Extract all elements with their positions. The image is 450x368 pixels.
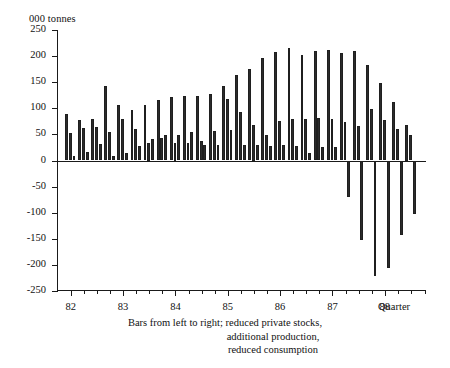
bar [78, 120, 81, 161]
chart-caption: Bars from left to right; reduced private… [0, 316, 450, 357]
y-axis-tick-label: 200 [30, 49, 46, 60]
bar [340, 53, 343, 160]
bar [392, 102, 395, 161]
x-axis-unit-label: Quarter [378, 301, 410, 312]
bar [230, 130, 233, 161]
bar [160, 138, 163, 161]
bar [69, 133, 72, 160]
bar [288, 48, 291, 160]
bar [243, 145, 246, 161]
bar [151, 139, 154, 161]
y-axis-tick-label: -100 [27, 206, 46, 217]
bar [104, 86, 107, 160]
bar [209, 94, 212, 161]
bar [86, 152, 89, 161]
y-axis-tick-label: -250 [27, 284, 46, 295]
bar [112, 156, 115, 160]
y-axis-tick-label: 0 [41, 154, 46, 165]
bar [278, 121, 281, 160]
bar [134, 129, 137, 160]
bar [334, 147, 337, 161]
plot-area: 250200150100500-50-100-150-200-250 [57, 30, 426, 291]
bar [387, 161, 390, 269]
bar [147, 143, 150, 161]
bar [252, 125, 255, 161]
y-axis-tick-label: 50 [36, 127, 47, 138]
y-axis-tick-label: -150 [27, 232, 46, 243]
bar [196, 96, 199, 161]
bar [144, 105, 147, 161]
bar [314, 51, 317, 160]
bar [226, 99, 229, 160]
bar [183, 96, 186, 160]
bar [121, 119, 124, 161]
bar [65, 114, 68, 161]
bar-chart: 000 tonnes 250200150100500-50-100-150-20… [0, 0, 450, 368]
bar [213, 131, 216, 160]
bar [344, 122, 347, 161]
x-axis-tick-label: 87 [327, 301, 338, 312]
bar [174, 143, 177, 161]
bar [95, 127, 98, 161]
bar [291, 119, 294, 160]
bar [327, 50, 330, 161]
bar [203, 145, 206, 161]
caption-line-1: Bars from left to right; reduced private… [0, 316, 450, 330]
bar [295, 146, 298, 161]
bar [317, 118, 320, 160]
bar [357, 126, 360, 160]
bar [379, 83, 382, 160]
bar [117, 105, 120, 161]
bar [370, 109, 373, 160]
bar [170, 97, 173, 161]
bar [409, 135, 412, 160]
bar [304, 119, 307, 161]
bar [256, 145, 259, 160]
bar [187, 143, 190, 160]
y-axis-tick-label: 100 [30, 101, 46, 112]
bar [125, 153, 128, 161]
bar [261, 58, 264, 160]
x-axis-tick-label: 85 [223, 301, 234, 312]
bar [400, 161, 403, 235]
bar [190, 132, 193, 161]
bar [164, 135, 167, 160]
bar [265, 135, 268, 161]
bar [396, 129, 399, 160]
bar [177, 135, 180, 161]
bar [347, 161, 350, 198]
bars-layer [57, 30, 426, 291]
x-axis-tick-label: 83 [118, 301, 129, 312]
bar [413, 161, 416, 215]
caption-line-3: reduced consumption [0, 343, 450, 357]
bar [308, 153, 311, 160]
bar [222, 86, 225, 161]
y-axis-tick-label: 150 [30, 75, 46, 86]
x-axis-tick-label: 86 [275, 301, 286, 312]
bar [383, 120, 386, 161]
bar [405, 125, 408, 161]
y-axis-tick: -250 [52, 291, 58, 292]
bar [108, 132, 111, 160]
bar [321, 147, 324, 160]
y-axis-tick-label: -50 [32, 180, 46, 191]
bar [131, 110, 134, 161]
bar [217, 145, 220, 161]
bar [248, 69, 251, 160]
y-axis-tick-label: -200 [27, 258, 46, 269]
bar [91, 119, 94, 161]
bar [274, 52, 277, 160]
bar [82, 128, 85, 161]
bar [269, 146, 272, 161]
bar [138, 146, 141, 160]
bar [353, 51, 356, 161]
bar [200, 141, 203, 161]
bar [301, 55, 304, 161]
bar [366, 65, 369, 161]
bar [99, 144, 102, 161]
bar [235, 75, 238, 160]
bar [360, 161, 363, 240]
bar [73, 156, 76, 160]
bar [157, 100, 160, 161]
bar [239, 112, 242, 160]
